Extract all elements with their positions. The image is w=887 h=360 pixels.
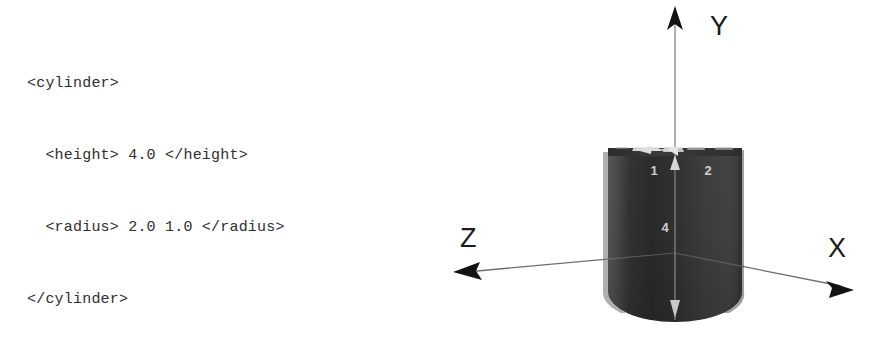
- y-axis-label: Y: [710, 11, 728, 41]
- z-axis-label: Z: [460, 223, 477, 253]
- code-line-1: <cylinder>: [27, 72, 285, 96]
- x-axis-arrowhead: [826, 281, 854, 298]
- radius-x-label: 2: [704, 163, 711, 178]
- height-label: 4: [661, 220, 669, 235]
- cylinder-solid: [603, 147, 744, 322]
- code-line-2: <height> 4.0 </height>: [27, 144, 285, 168]
- radius-z-label: 1: [650, 163, 657, 178]
- code-line-4: </cylinder>: [27, 288, 285, 312]
- cylinder-3d-figure: 1 2 4 Y X Z: [420, 0, 887, 360]
- x-axis-label: X: [828, 233, 846, 263]
- code-listing: <cylinder> <height> 4.0 </height> <radiu…: [27, 24, 285, 336]
- code-line-3: <radius> 2.0 1.0 </radius>: [27, 216, 285, 240]
